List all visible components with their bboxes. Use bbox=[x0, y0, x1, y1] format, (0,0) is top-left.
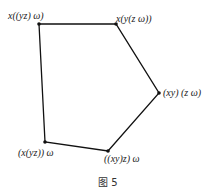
vertex-label-3: (xy) (z ω) bbox=[163, 88, 201, 98]
pentagon-edges bbox=[39, 24, 159, 151]
vertex-label-4: ((xy)z) ω bbox=[104, 154, 140, 164]
vertex-dot-5 bbox=[43, 140, 47, 144]
vertex-dot-1 bbox=[37, 22, 41, 26]
vertex-dot-3 bbox=[157, 91, 161, 95]
vertex-label-2: x(y(z ω)) bbox=[116, 14, 152, 24]
vertex-label-1: x((yz) ω) bbox=[8, 11, 44, 21]
vertex-label-5: (x(yz)) ω bbox=[18, 148, 54, 158]
figure-caption: 图 5 bbox=[98, 178, 118, 188]
